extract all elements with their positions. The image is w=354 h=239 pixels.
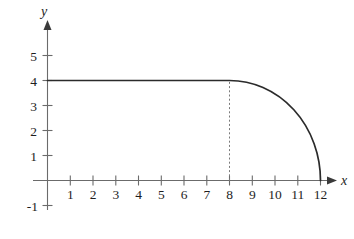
- y-tick-label-4: 4: [30, 74, 37, 89]
- y-tick-label-1: 1: [30, 149, 37, 164]
- x-tick-label-6: 6: [181, 187, 188, 202]
- y-axis-label: y: [39, 4, 48, 19]
- x-tick-label-5: 5: [158, 187, 165, 202]
- x-axis-arrow-icon: [327, 177, 337, 185]
- x-tick-label-11: 11: [291, 187, 304, 202]
- x-tick-label-9: 9: [249, 187, 256, 202]
- x-tick-label-7: 7: [203, 187, 210, 202]
- y-tick-label-5: 5: [30, 49, 37, 64]
- y-tick-label-3: 3: [30, 99, 37, 114]
- x-tick-label-1: 1: [67, 187, 74, 202]
- y-tick-label-minus-1: -1: [27, 199, 38, 214]
- x-tick-label-3: 3: [112, 187, 119, 202]
- x-axis-label: x: [340, 173, 348, 188]
- x-tick-label-8: 8: [226, 187, 233, 202]
- function-graph-svg: 1 2 3 4 5 6 7 8 9 10 11 12 5 4 3 2 1 -1 …: [0, 0, 354, 239]
- x-tick-label-2: 2: [90, 187, 97, 202]
- x-tick-label-10: 10: [268, 187, 282, 202]
- y-tick-label-2: 2: [30, 124, 37, 139]
- y-axis-tick-labels: 5 4 3 2 1 -1: [27, 49, 38, 214]
- x-tick-label-12: 12: [314, 187, 328, 202]
- function-curve: [48, 81, 321, 181]
- chart-figure: 1 2 3 4 5 6 7 8 9 10 11 12 5 4 3 2 1 -1 …: [0, 0, 354, 239]
- x-axis-tick-labels: 1 2 3 4 5 6 7 8 9 10 11 12: [67, 187, 327, 202]
- y-axis-arrow-icon: [44, 20, 52, 30]
- x-tick-label-4: 4: [135, 187, 142, 202]
